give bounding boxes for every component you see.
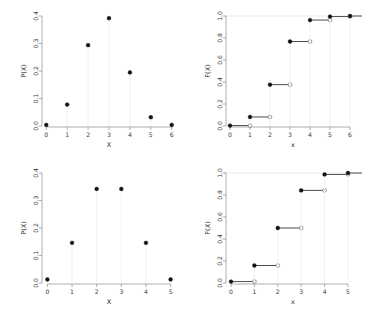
y-tick-label: 0.3: [32, 196, 39, 206]
y-tick-label: 0.8: [216, 33, 223, 43]
y-tick-label: 0.3: [32, 39, 39, 49]
x-tick-label: 4: [308, 131, 312, 138]
step-closed-point: [328, 15, 332, 19]
step-closed-point: [253, 264, 257, 268]
x-tick-label: 3: [299, 288, 303, 295]
x-tick-label: 1: [65, 131, 69, 138]
x-tick-label: 2: [86, 131, 90, 138]
y-axis-title: F(X): [204, 64, 212, 77]
data-point: [107, 16, 111, 20]
x-tick-label: 1: [252, 288, 256, 295]
data-point: [44, 123, 48, 127]
step-closed-point: [308, 18, 312, 22]
data-point: [70, 241, 74, 245]
data-point: [95, 187, 99, 191]
x-tick-label: 0: [45, 288, 49, 295]
step-closed-point: [268, 83, 272, 87]
x-tick-label: 3: [119, 288, 123, 295]
x-tick-label: 3: [107, 131, 111, 138]
x-tick-label: 2: [276, 288, 280, 295]
data-point: [86, 43, 90, 47]
step-closed-point: [323, 173, 327, 177]
y-tick-label: 0.4: [32, 168, 39, 178]
data-point: [65, 103, 69, 107]
y-tick-label: 0.6: [216, 212, 223, 222]
panel-bottom-left-pmf: 0.00.10.20.30.4012345XP(X): [0, 157, 184, 313]
x-axis-title: X: [107, 298, 112, 306]
figure-canvas: 0.00.10.20.30.40123456XP(X) 0.00.20.40.6…: [0, 0, 368, 313]
y-tick-label: 0.2: [32, 66, 39, 76]
step-closed-point: [346, 171, 350, 175]
y-tick-label: 0.0: [216, 121, 223, 131]
step-closed-point: [348, 14, 352, 18]
y-tick-label: 0.1: [32, 94, 39, 104]
x-tick-label: 5: [149, 131, 153, 138]
data-point: [170, 123, 174, 127]
x-tick-label: 2: [95, 288, 99, 295]
y-tick-label: 1.0: [216, 11, 223, 21]
x-tick-label: 5: [346, 288, 350, 295]
panel-top-right-cdf: 0.00.20.40.60.81.00123456xF(X): [184, 0, 368, 156]
y-tick-label: 0.6: [216, 55, 223, 65]
x-tick-label: 1: [248, 131, 252, 138]
plot-bottom-right: 0.00.20.40.60.81.0012345xF(X): [184, 157, 368, 313]
y-tick-label: 0.0: [32, 121, 39, 131]
step-closed-point: [248, 115, 252, 119]
x-tick-label: 2: [268, 131, 272, 138]
y-tick-label: 0.2: [216, 99, 223, 109]
x-axis-title: x: [291, 141, 295, 149]
x-tick-label: 0: [44, 131, 48, 138]
panel-top-left-pmf: 0.00.10.20.30.40123456XP(X): [0, 0, 184, 156]
step-closed-point: [276, 226, 280, 230]
x-tick-label: 0: [228, 131, 232, 138]
y-tick-label: 0.8: [216, 190, 223, 200]
x-tick-label: 4: [128, 131, 132, 138]
y-tick-label: 0.4: [216, 77, 223, 87]
x-tick-label: 5: [169, 288, 173, 295]
x-axis-title: X: [107, 141, 112, 149]
x-tick-label: 3: [288, 131, 292, 138]
x-tick-label: 1: [70, 288, 74, 295]
x-tick-label: 4: [323, 288, 327, 295]
plot-top-left: 0.00.10.20.30.40123456XP(X): [0, 0, 184, 156]
x-tick-label: 5: [328, 131, 332, 138]
plot-top-right: 0.00.20.40.60.81.00123456xF(X): [184, 0, 368, 156]
data-point: [169, 278, 173, 282]
y-tick-label: 0.4: [216, 234, 223, 244]
y-axis-title: P(X): [20, 64, 28, 78]
y-axis-title: F(X): [204, 221, 212, 234]
step-closed-point: [288, 40, 292, 44]
x-tick-label: 0: [229, 288, 233, 295]
y-tick-label: 0.2: [32, 223, 39, 233]
y-tick-label: 1.0: [216, 168, 223, 178]
plot-bottom-left: 0.00.10.20.30.4012345XP(X): [0, 157, 184, 313]
y-tick-label: 0.0: [216, 278, 223, 288]
x-tick-label: 4: [144, 288, 148, 295]
y-axis-title: P(X): [20, 221, 28, 235]
y-tick-label: 0.2: [216, 256, 223, 266]
data-point: [119, 187, 123, 191]
data-point: [45, 278, 49, 282]
panel-bottom-right-cdf: 0.00.20.40.60.81.0012345xF(X): [184, 157, 368, 313]
step-closed-point: [228, 124, 232, 128]
y-tick-label: 0.0: [32, 278, 39, 288]
step-closed-point: [229, 280, 233, 284]
data-point: [149, 115, 153, 119]
x-tick-label: 6: [170, 131, 174, 138]
x-tick-label: 6: [348, 131, 352, 138]
y-tick-label: 0.1: [32, 251, 39, 261]
step-closed-point: [299, 188, 303, 192]
data-point: [144, 241, 148, 245]
data-point: [128, 70, 132, 74]
x-axis-title: x: [291, 298, 295, 306]
y-tick-label: 0.4: [32, 11, 39, 21]
